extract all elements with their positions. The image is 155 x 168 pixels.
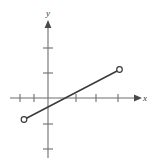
y-axis-arrow-icon xyxy=(45,20,52,28)
endpoint-open-circle-right xyxy=(117,67,123,73)
y-axis-label: y xyxy=(45,8,50,18)
x-axis-arrow-icon xyxy=(134,95,142,102)
endpoint-open-circle-left xyxy=(21,117,27,123)
x-axis-label: x xyxy=(142,93,147,103)
graph-figure: x y xyxy=(0,0,155,168)
coordinate-plane-svg: x y xyxy=(0,0,155,168)
line-segment xyxy=(25,70,119,119)
